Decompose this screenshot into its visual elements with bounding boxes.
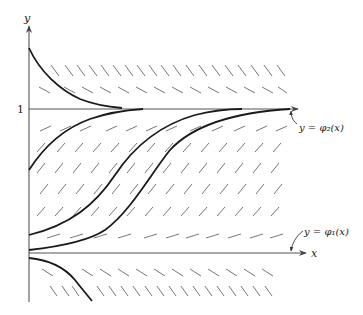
y-tick-label-1: 1 [17,103,24,116]
slope-marks-between-r6 [47,234,283,238]
phi2-annotation: y = φ₂(x) [298,122,344,133]
solution-curve-below-0 [29,258,92,301]
slope-marks-between-r5 [37,207,279,216]
slope-field [37,65,287,296]
slope-marks-above-top [51,65,285,76]
slope-marks-below-r1 [42,269,273,276]
slope-marks-above-low [39,87,287,93]
slope-marks-between-r3 [37,163,279,173]
solution-curves [29,48,290,301]
slope-marks-between-r2 [37,143,281,152]
direction-field-figure: y x 1 y = φ₂(x) y = φ₁(x) [0,0,363,315]
phi2-leader-arrow [291,111,297,124]
solution-curve-middle [29,109,242,235]
phi1-annotation: y = φ₁(x) [303,226,349,237]
phi1-leader-arrow [291,231,303,251]
y-axis-label: y [23,12,31,25]
solution-curve-above-1 [29,48,122,108]
x-axis-label: x [311,247,318,260]
slope-marks-between-r4 [40,184,282,194]
